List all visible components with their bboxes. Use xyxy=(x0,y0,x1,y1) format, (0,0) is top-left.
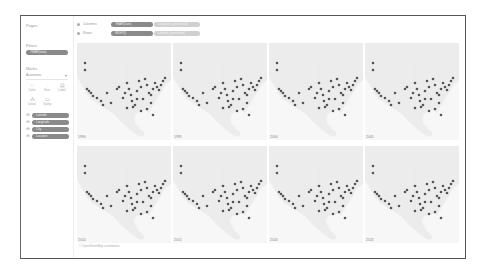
marks-color-button[interactable]: ⁙Color xyxy=(25,82,39,92)
marks-field-pill[interactable]: Longitude xyxy=(32,120,69,125)
detail-field-icon: ⁂ xyxy=(26,112,30,117)
mark-type-value: Automatic xyxy=(26,73,42,77)
columns-pill[interactable]: YEAR(Date) xyxy=(111,22,153,27)
marks-title: Marks xyxy=(26,66,37,71)
rows-pill[interactable]: INDEX() xyxy=(111,31,153,36)
panel-year-label: 2010 xyxy=(78,238,86,242)
rows-pill[interactable]: Latitude (generated) xyxy=(154,31,200,36)
marks-field-pill[interactable]: Location xyxy=(32,134,69,139)
map-panel[interactable]: 1995 xyxy=(173,43,267,140)
filter-pill[interactable]: YEAR(Date) xyxy=(26,50,68,55)
panel-year-label: 2025 xyxy=(366,238,374,242)
map-panel[interactable]: 2025 xyxy=(365,146,459,243)
panel-year-label: 2000 xyxy=(270,135,278,139)
rows-icon xyxy=(77,32,80,35)
north-america-map xyxy=(365,146,459,243)
panel-year-label: 1990 xyxy=(78,135,86,139)
north-america-map xyxy=(365,43,459,140)
map-panel[interactable]: 2020 xyxy=(269,146,363,243)
detail-field-icon: ⁂ xyxy=(26,126,30,131)
map-grid: 1990 1995 2000 2005 2010 2015 2020 2025 xyxy=(77,43,461,253)
detail-field-icon: ⁂ xyxy=(26,133,30,138)
marks-label-button[interactable]: ▤Label xyxy=(55,82,69,92)
mark-type-dropdown[interactable]: Automatic ▾ xyxy=(26,73,68,80)
columns-shelf-label: Columns xyxy=(83,22,97,26)
north-america-map xyxy=(173,146,267,243)
panel-year-label: 1995 xyxy=(174,135,182,139)
north-america-map xyxy=(77,43,171,140)
panel-year-label: 2015 xyxy=(174,238,182,242)
map-panel[interactable]: 2005 xyxy=(365,43,459,140)
map-panel[interactable]: 2000 xyxy=(269,43,363,140)
map-panel[interactable]: 2010 xyxy=(77,146,171,243)
north-america-map xyxy=(173,43,267,140)
rows-shelf-label: Rows xyxy=(83,31,92,35)
left-panel: Pages Filters YEAR(Date) Marks Automatic… xyxy=(21,16,74,258)
panel-year-label: 2005 xyxy=(366,135,374,139)
marks-tooltip-button[interactable]: ▭Tooltip xyxy=(40,96,54,106)
chevron-down-icon: ▾ xyxy=(65,73,67,78)
pages-title: Pages xyxy=(26,23,37,28)
north-america-map xyxy=(77,146,171,243)
north-america-map xyxy=(269,146,363,243)
marks-field-pill[interactable]: Latitude xyxy=(32,113,69,118)
map-panel[interactable]: 2015 xyxy=(173,146,267,243)
panel-year-label: 2020 xyxy=(270,238,278,242)
map-attribution: © OpenStreetMap contributors xyxy=(79,244,120,248)
north-america-map xyxy=(269,43,363,140)
marks-detail-button[interactable]: ⁂Detail xyxy=(25,96,39,106)
marks-field-pill[interactable]: City xyxy=(32,127,69,132)
tableau-window: Pages Filters YEAR(Date) Marks Automatic… xyxy=(20,15,466,259)
columns-icon xyxy=(77,23,80,26)
columns-pill[interactable]: Longitude (generated) xyxy=(154,22,200,27)
map-panel[interactable]: 1990 xyxy=(77,43,171,140)
marks-size-button[interactable]: ◌Size xyxy=(40,82,54,92)
filters-title: Filters xyxy=(26,43,37,48)
detail-field-icon: ⁂ xyxy=(26,119,30,124)
